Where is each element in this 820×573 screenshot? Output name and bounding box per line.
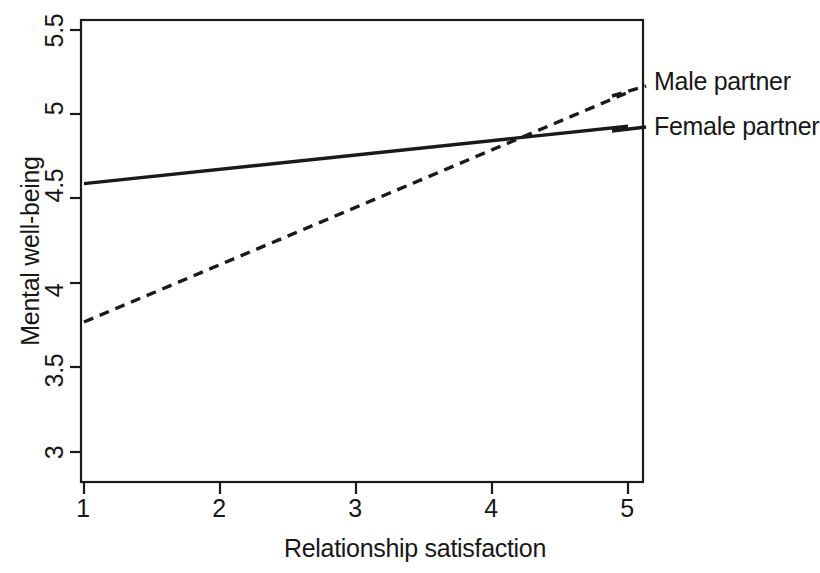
plot-frame (81, 20, 643, 482)
plot-canvas (0, 0, 820, 573)
legend-key-male-partner (612, 86, 646, 96)
series-line-male-partner (84, 92, 628, 322)
series-line-female-partner (84, 126, 628, 183)
y-axis-ticks (70, 30, 81, 452)
chart-figure: Mental well-being Relationship satisfact… (0, 0, 820, 573)
x-axis-ticks (84, 482, 628, 494)
